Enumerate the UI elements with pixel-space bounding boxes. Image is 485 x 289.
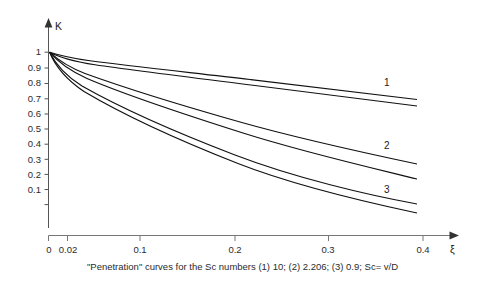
x-tick-label-0-4: 0.4 (409, 245, 437, 255)
curve-label-3: 3 (384, 184, 390, 195)
y-tick-label-0-5: 0.5 (8, 124, 41, 134)
figure-caption: "Penetration" curves for the Sc numbers … (0, 261, 485, 272)
curve-label-1: 1 (384, 77, 390, 88)
y-tick-label-0-2: 0.2 (8, 170, 41, 180)
y-tick-label-0-8: 0.8 (8, 78, 41, 88)
y-tick-label-0-3: 0.3 (8, 155, 41, 165)
x-axis-label: ξ (450, 243, 455, 255)
y-axis-ticks (45, 52, 49, 204)
x-tick-label-0-3: 0.3 (314, 245, 342, 255)
y-axis (45, 18, 53, 228)
y-tick-label-0-4: 0.4 (8, 139, 41, 149)
x-axis (49, 232, 460, 240)
x-tick-label-0-02: 0.02 (52, 245, 84, 255)
x-tick-label-0-2: 0.2 (221, 245, 249, 255)
y-tick-label-0-7: 0.7 (8, 94, 41, 104)
curve-3-sc-0-9 (50, 52, 417, 213)
x-tick-label-0-1: 0.1 (126, 245, 154, 255)
y-tick-label-1: 1 (8, 47, 41, 57)
y-tick-label-0-6: 0.6 (8, 109, 41, 119)
y-axis-label: K (55, 20, 62, 32)
curve-label-2: 2 (384, 140, 390, 151)
x-axis-ticks (49, 236, 424, 242)
y-tick-label-0-9: 0.9 (8, 63, 41, 73)
curve-2-sc-2-206 (50, 52, 417, 179)
y-tick-label-0-1: 0.1 (8, 185, 41, 195)
penetration-curves-figure: K ξ 1 0.9 0.8 0.7 0.6 0.5 0.4 0.3 0.2 0.… (0, 0, 485, 289)
